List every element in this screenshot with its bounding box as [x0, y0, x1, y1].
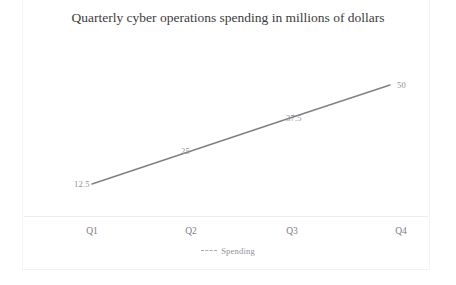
data-label-q3: 37.5 — [286, 113, 302, 123]
chart-card: Quarterly cyber operations spending in m… — [0, 0, 456, 285]
spending-series-line — [92, 85, 390, 184]
legend-line-marker-icon — [201, 250, 217, 252]
x-tick-q3: Q3 — [262, 226, 322, 236]
line-chart-plot — [0, 0, 456, 285]
x-tick-q2: Q2 — [161, 226, 221, 236]
legend-label-spending: Spending — [221, 246, 255, 256]
data-label-q2: 25 — [181, 146, 190, 156]
x-tick-q1: Q1 — [62, 226, 122, 236]
chart-legend: Spending — [0, 246, 456, 256]
data-label-q4: 50 — [397, 80, 406, 90]
x-tick-q4: Q4 — [371, 226, 431, 236]
data-label-q1: 12.5 — [74, 179, 90, 189]
